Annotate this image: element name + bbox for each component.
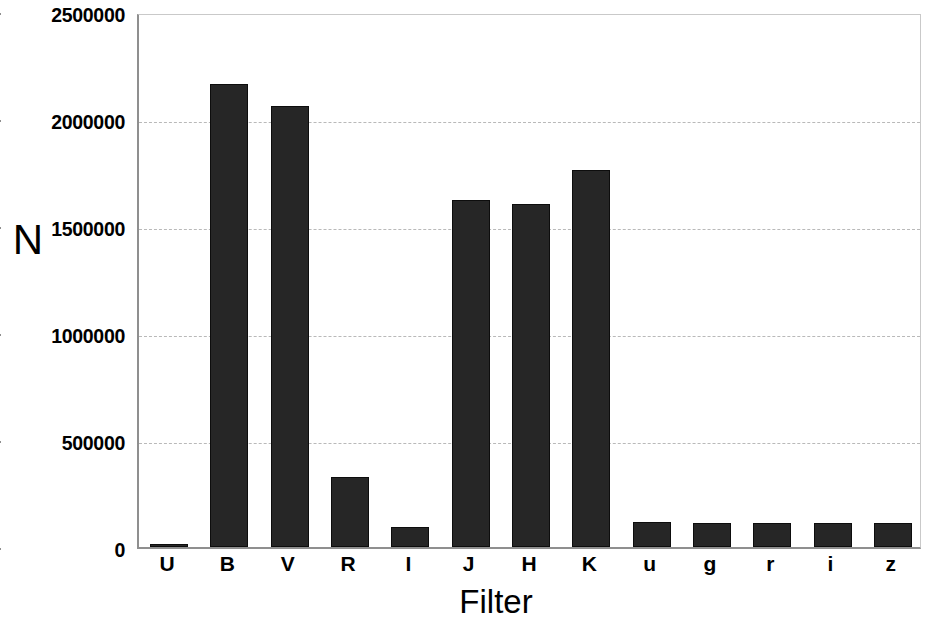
x-tick-label: J [439, 552, 499, 576]
y-tick-label: 1500000 [51, 218, 125, 241]
y-tick-label: 2500000 [51, 4, 125, 27]
y-tick-label: 0 [114, 539, 125, 562]
bar [391, 527, 429, 547]
bar [814, 523, 852, 547]
bar [150, 544, 188, 547]
x-tick-label: r [740, 552, 800, 576]
x-tick-label: u [620, 552, 680, 576]
bar [512, 204, 550, 547]
x-tick-label: B [197, 552, 257, 576]
y-tick-label: 500000 [62, 432, 125, 455]
x-tick-label: V [258, 552, 318, 576]
bar [331, 477, 369, 547]
y-tick-mark [0, 548, 1, 550]
y-tick-mark [0, 120, 1, 122]
x-tick-label: R [318, 552, 378, 576]
bar [572, 170, 610, 547]
x-axis-title: Filter [396, 583, 596, 621]
bar [452, 200, 490, 547]
y-tick-mark [0, 13, 1, 15]
bar [693, 523, 731, 547]
y-axis-tick-labels: 05000001000000150000020000002500000 [0, 14, 131, 549]
bar [271, 106, 309, 547]
bar [210, 84, 248, 547]
x-axis-tick-labels: UBVRIJHKugriz [137, 552, 921, 582]
y-tick-label: 2000000 [51, 111, 125, 134]
y-tick-mark [0, 334, 1, 336]
x-tick-label: i [801, 552, 861, 576]
y-tick-mark [0, 227, 1, 229]
y-tick-label: 1000000 [51, 325, 125, 348]
bar-chart-figure: N 05000001000000150000020000002500000 UB… [0, 0, 930, 625]
x-tick-label: g [680, 552, 740, 576]
bar-series [139, 15, 920, 547]
y-tick-mark [0, 441, 1, 443]
x-tick-label: H [499, 552, 559, 576]
plot-area [137, 14, 921, 549]
x-tick-label: U [137, 552, 197, 576]
x-tick-label: I [378, 552, 438, 576]
bar [874, 523, 912, 547]
x-tick-label: K [559, 552, 619, 576]
bar [633, 522, 671, 547]
bar [753, 523, 791, 547]
x-tick-label: z [861, 552, 921, 576]
